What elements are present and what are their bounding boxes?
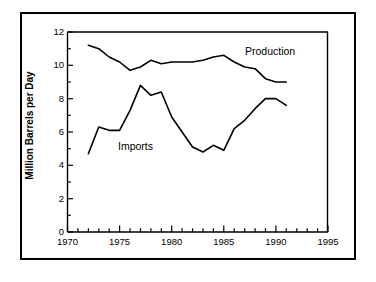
y-tick-label-12: 12 [44, 27, 64, 37]
x-tick-label-1995: 1995 [308, 237, 348, 247]
y-tick-label-10: 10 [44, 60, 64, 70]
y-tick-label-6: 6 [44, 127, 64, 137]
series-label-imports: Imports [118, 140, 153, 152]
y-axis-ticks [68, 32, 74, 232]
y-tick-label-2: 2 [44, 194, 64, 204]
y-tick-label-4: 4 [44, 160, 64, 170]
axes-frame [68, 32, 329, 232]
figure-root: 12 10 8 6 4 2 0 1970 1975 1980 1985 1990… [0, 0, 376, 282]
x-tick-label-1980: 1980 [152, 237, 192, 247]
x-tick-label-1985: 1985 [204, 237, 244, 247]
x-axis-ticks [68, 226, 329, 233]
y-tick-label-8: 8 [44, 94, 64, 104]
series-label-production: Production [245, 45, 295, 57]
x-tick-label-1990: 1990 [256, 237, 296, 247]
x-tick-label-1970: 1970 [48, 237, 88, 247]
x-tick-label-1975: 1975 [100, 237, 140, 247]
y-axis-title: Million Barrels per Day [24, 51, 35, 201]
